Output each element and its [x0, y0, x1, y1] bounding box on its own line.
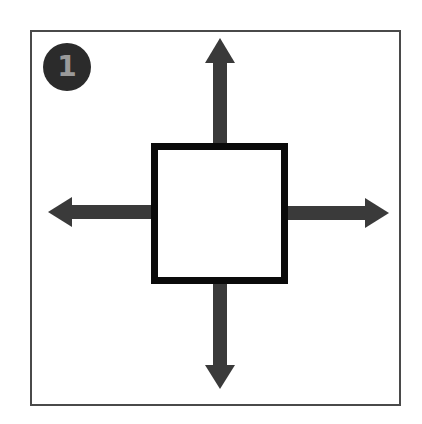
arrow-down-icon — [205, 282, 235, 389]
arrow-up-icon — [205, 38, 235, 146]
arrow-left-icon — [48, 197, 155, 227]
expand-diagram — [0, 0, 422, 424]
center-square — [155, 147, 285, 281]
arrow-right-icon — [285, 198, 389, 228]
